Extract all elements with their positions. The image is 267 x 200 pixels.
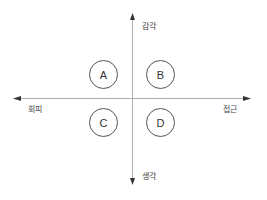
quadrant-circle-a: A	[89, 60, 118, 89]
axis-label-right: 접근	[223, 106, 237, 114]
axis-label-bottom: 생각	[142, 173, 156, 181]
quadrant-label: B	[157, 69, 164, 81]
arrow-up-icon	[130, 13, 135, 20]
quadrant-circle-b: B	[146, 60, 175, 89]
quadrant-circle-c: C	[89, 108, 118, 137]
quadrant-label: C	[100, 117, 108, 129]
arrow-down-icon	[130, 178, 135, 185]
quadrant-axes	[0, 0, 267, 200]
axis-label-top: 감각	[142, 23, 156, 31]
quadrant-label: A	[100, 69, 107, 81]
arrow-right-icon	[243, 96, 251, 101]
arrow-left-icon	[13, 96, 21, 101]
quadrant-circle-d: D	[146, 108, 175, 137]
axis-label-left: 회피	[28, 106, 42, 114]
quadrant-label: D	[157, 117, 165, 129]
